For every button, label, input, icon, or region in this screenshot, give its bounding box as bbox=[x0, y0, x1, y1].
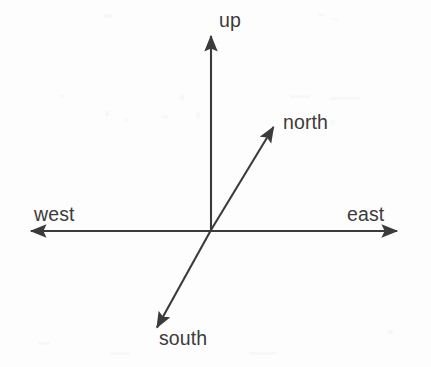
axis-label-up: up bbox=[219, 11, 241, 31]
coordinate-axes-diagram: up north east west south bbox=[0, 0, 431, 367]
axis-line-south bbox=[157, 230, 211, 328]
axis-label-west: west bbox=[34, 205, 75, 225]
axis-label-north: north bbox=[283, 113, 328, 133]
axis-line-north bbox=[211, 127, 274, 230]
axes-drawing bbox=[0, 0, 431, 367]
axis-label-east: east bbox=[347, 205, 384, 225]
axis-label-south: south bbox=[159, 329, 207, 349]
